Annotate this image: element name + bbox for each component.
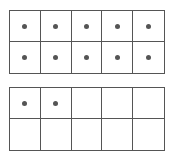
frame-cell xyxy=(41,88,72,119)
frame-cell xyxy=(10,88,41,119)
frame-cell xyxy=(41,11,72,42)
frame-cell xyxy=(10,42,41,73)
frame-cell xyxy=(72,88,103,119)
frame-cell xyxy=(102,119,133,150)
frame-cell xyxy=(102,11,133,42)
frame-cell xyxy=(102,42,133,73)
frame-cell xyxy=(72,119,103,150)
ten-frame-2 xyxy=(9,87,165,151)
frame-cell xyxy=(41,42,72,73)
counter-dot-icon xyxy=(22,101,27,106)
frame-cell xyxy=(133,119,164,150)
counter-dot-icon xyxy=(146,24,151,29)
frame-cell xyxy=(133,11,164,42)
counter-dot-icon xyxy=(115,55,120,60)
frame-cell xyxy=(72,11,103,42)
counter-dot-icon xyxy=(22,55,27,60)
frame-cell xyxy=(72,42,103,73)
frame-cell xyxy=(133,88,164,119)
frame-cell xyxy=(41,119,72,150)
frame-cell xyxy=(133,42,164,73)
counter-dot-icon xyxy=(84,55,89,60)
counter-dot-icon xyxy=(146,55,151,60)
ten-frame-1 xyxy=(9,10,165,74)
frame-cell xyxy=(102,88,133,119)
counter-dot-icon xyxy=(115,24,120,29)
frame-cell xyxy=(10,119,41,150)
counter-dot-icon xyxy=(22,24,27,29)
counter-dot-icon xyxy=(84,24,89,29)
counter-dot-icon xyxy=(53,24,58,29)
counter-dot-icon xyxy=(53,55,58,60)
counter-dot-icon xyxy=(53,101,58,106)
frame-cell xyxy=(10,11,41,42)
